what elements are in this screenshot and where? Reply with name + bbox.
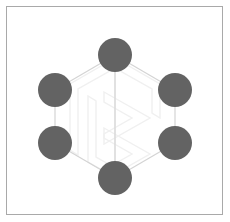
node-lower-left[interactable]: [38, 126, 72, 160]
node-lower-right[interactable]: [158, 126, 192, 160]
node-network-diagram: [0, 0, 230, 222]
diagram-screenshot: Hexagonal Node Network Diagram Top Node …: [0, 0, 230, 222]
node-upper-left[interactable]: [38, 73, 72, 107]
node-top[interactable]: [98, 38, 132, 72]
node-bottom[interactable]: [98, 161, 132, 195]
node-upper-right[interactable]: [158, 73, 192, 107]
